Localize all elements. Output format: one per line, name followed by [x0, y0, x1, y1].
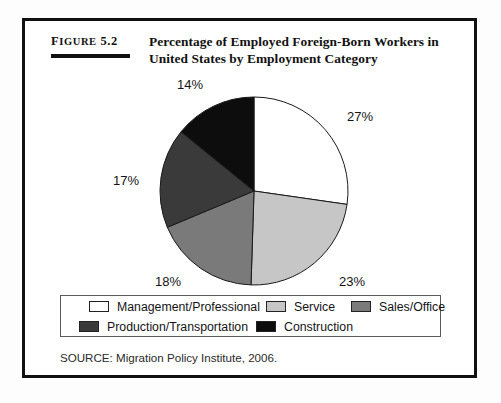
legend-item-label: Production/Transportation [107, 320, 248, 334]
legend-item[interactable]: Management/Professional [89, 300, 260, 314]
figure-number-caps: IGURE [59, 36, 96, 47]
figure-number: FIGURE 5.2 [51, 34, 149, 49]
legend-row-1: Management/ProfessionalServiceSales/Offi… [61, 296, 440, 317]
pie-slice [167, 191, 254, 285]
pie-slice [251, 191, 347, 285]
pie-slice-value-label: 18% [155, 274, 181, 289]
legend-item-label: Construction [284, 320, 353, 334]
pie-slice [254, 97, 348, 204]
pie-slice-group [160, 97, 348, 285]
legend-item[interactable]: Sales/Office [351, 300, 445, 314]
figure-title-line-2: United States by Employment Category [149, 50, 439, 67]
pie-slice [181, 97, 254, 191]
legend-item-label: Service [294, 300, 335, 314]
legend-row-2: Production/TransportationConstruction [61, 316, 440, 337]
pie-slice [160, 132, 254, 228]
pie-slice-value-label: 14% [177, 77, 203, 92]
legend-color-swatch [256, 321, 276, 332]
legend-color-swatch [351, 301, 371, 312]
legend-item-label: Management/Professional [117, 300, 260, 314]
legend-color-swatch [89, 301, 109, 312]
figure-frame: FIGURE 5.2 Percentage of Employed Foreig… [22, 18, 477, 378]
pie-slice-value-label: 17% [113, 173, 139, 188]
figure-number-value: 5.2 [100, 34, 117, 48]
chart-legend: Management/ProfessionalServiceSales/Offi… [60, 295, 441, 337]
figure-title-line-1: Percentage of Employed Foreign-Born Work… [149, 33, 439, 50]
legend-item-label: Sales/Office [379, 300, 445, 314]
legend-item[interactable]: Production/Transportation [79, 320, 248, 334]
figure-page: FIGURE 5.2 Percentage of Employed Foreig… [0, 0, 501, 403]
figure-number-column: FIGURE 5.2 [51, 33, 149, 58]
figure-number-prefix: F [51, 34, 59, 48]
figure-header: FIGURE 5.2 Percentage of Employed Foreig… [51, 33, 451, 67]
pie-slice-value-label: 27% [347, 109, 373, 124]
legend-color-swatch [79, 321, 99, 332]
legend-item[interactable]: Construction [256, 320, 353, 334]
source-note: SOURCE: Migration Policy Institute, 2006… [60, 351, 277, 364]
pie-slice-value-label: 23% [339, 274, 365, 289]
title-rule [51, 54, 130, 58]
page-title: Percentage of Employed Foreign-Born Work… [149, 33, 439, 67]
legend-color-swatch [266, 301, 286, 312]
legend-item[interactable]: Service [266, 300, 335, 314]
